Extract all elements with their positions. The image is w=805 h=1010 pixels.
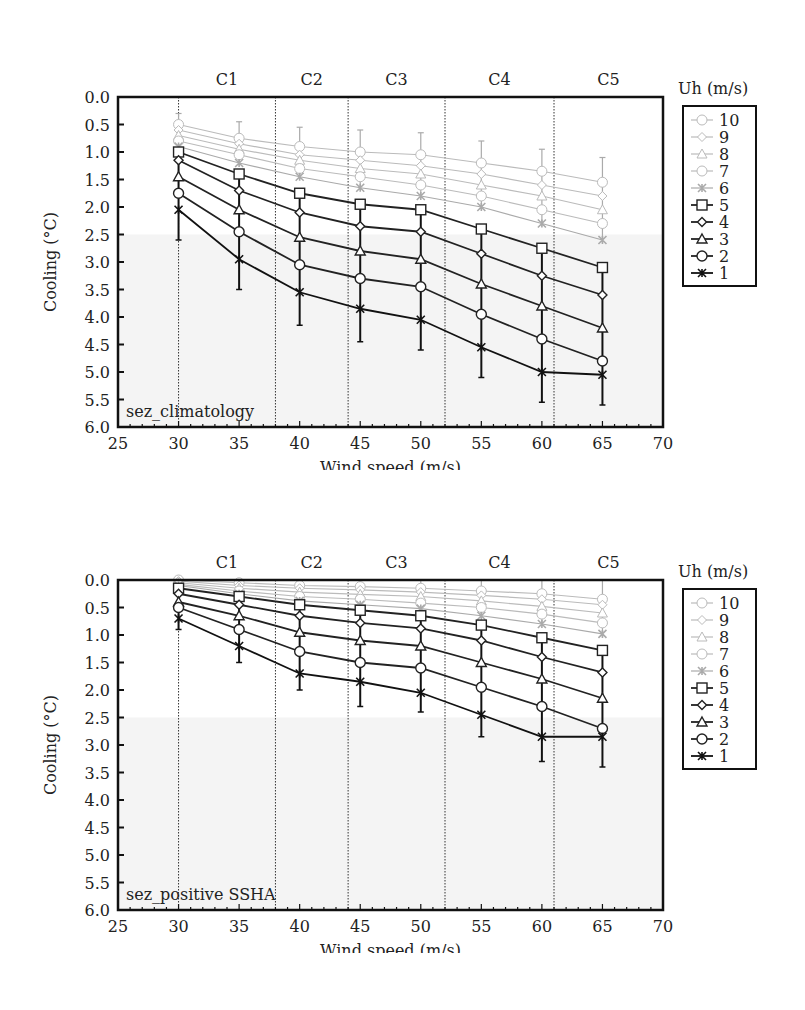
category-label: C3 <box>385 553 407 572</box>
square-marker-icon <box>476 620 486 630</box>
diamond-marker-icon <box>537 653 546 662</box>
diamond-marker-icon <box>598 668 607 677</box>
square-marker-icon <box>597 645 607 655</box>
square-marker-icon <box>697 200 707 210</box>
diamond-marker-icon <box>295 208 304 217</box>
y-tick-label: 4.5 <box>85 336 110 355</box>
circle-marker-icon <box>697 115 707 125</box>
triangle-marker-icon <box>174 172 184 181</box>
circle-marker-icon <box>537 609 547 619</box>
x-axis-label: Wind speed (m/s) <box>320 458 461 470</box>
x-tick-label: 45 <box>350 917 370 936</box>
circle-marker-icon <box>476 191 486 201</box>
square-marker-icon <box>234 169 244 179</box>
x-tick-label: 50 <box>411 434 431 453</box>
category-label: C1 <box>216 70 238 89</box>
y-tick-label: 6.0 <box>85 418 110 437</box>
y-tick-label: 3.5 <box>85 281 110 300</box>
category-label: C3 <box>385 70 407 89</box>
x-tick-label: 30 <box>168 917 188 936</box>
diamond-marker-icon <box>356 222 365 231</box>
plot-shading <box>118 235 663 428</box>
circle-marker-icon <box>597 177 607 187</box>
star-marker-icon <box>538 220 546 228</box>
y-axis-label: Cooling (°C) <box>41 695 60 795</box>
y-tick-label: 0.0 <box>85 88 110 107</box>
x-tick-label: 45 <box>350 434 370 453</box>
circle-marker-icon <box>476 603 486 613</box>
x-tick-label: 65 <box>592 434 612 453</box>
category-label: C2 <box>301 553 323 572</box>
category-label: C4 <box>488 70 510 89</box>
circle-marker-icon <box>234 150 244 160</box>
circle-marker-icon <box>537 334 547 344</box>
category-label: C5 <box>597 70 619 89</box>
circle-marker-icon <box>476 682 486 692</box>
square-marker-icon <box>537 243 547 253</box>
square-marker-icon <box>416 205 426 215</box>
y-axis-label: Cooling (°C) <box>41 212 60 312</box>
y-tick-label: 4.0 <box>85 791 110 810</box>
diamond-marker-icon <box>477 170 486 179</box>
x-tick-label: 35 <box>229 434 249 453</box>
diamond-marker-icon <box>295 611 304 620</box>
circle-marker-icon <box>416 180 426 190</box>
x-tick-label: 70 <box>653 434 673 453</box>
square-marker-icon <box>416 611 426 621</box>
diamond-marker-icon <box>537 181 546 190</box>
circle-marker-icon <box>697 251 707 261</box>
square-marker-icon <box>295 188 305 198</box>
circle-marker-icon <box>416 663 426 673</box>
y-tick-label: 1.5 <box>85 171 110 190</box>
circle-marker-icon <box>355 172 365 182</box>
y-tick-label: 2.5 <box>85 226 110 245</box>
y-tick-label: 4.5 <box>85 819 110 838</box>
x-tick-label: 30 <box>168 434 188 453</box>
circle-marker-icon <box>597 219 607 229</box>
x-tick-label: 60 <box>532 434 552 453</box>
legend-label: 1 <box>719 747 729 766</box>
circle-marker-icon <box>697 734 707 744</box>
x-tick-label: 35 <box>229 917 249 936</box>
diamond-marker-icon <box>477 636 486 645</box>
y-tick-label: 5.0 <box>85 363 110 382</box>
triangle-marker-icon <box>234 205 244 214</box>
circle-marker-icon <box>697 166 707 176</box>
y-tick-label: 0.0 <box>85 571 110 590</box>
y-tick-label: 5.0 <box>85 846 110 865</box>
category-label: C1 <box>216 553 238 572</box>
square-marker-icon <box>597 263 607 273</box>
circle-marker-icon <box>355 658 365 668</box>
star-marker-icon <box>235 642 243 650</box>
y-tick-label: 6.0 <box>85 901 110 920</box>
chart-svg-b: C1C2C3C4C50.00.51.01.52.02.53.03.54.04.5… <box>0 483 805 953</box>
star-marker-icon <box>477 711 485 719</box>
y-tick-label: 2.0 <box>85 198 110 217</box>
chart-panel-b: C1C2C3C4C50.00.51.01.52.02.53.03.54.04.5… <box>0 483 805 953</box>
circle-marker-icon <box>537 702 547 712</box>
circle-marker-icon <box>597 356 607 366</box>
y-tick-label: 0.5 <box>85 116 110 135</box>
y-tick-label: 1.0 <box>85 143 110 162</box>
square-marker-icon <box>355 605 365 615</box>
x-tick-label: 40 <box>289 434 309 453</box>
star-marker-icon <box>235 159 243 167</box>
circle-marker-icon <box>476 309 486 319</box>
chart-svg-a: C1C2C3C4C50.00.51.01.52.02.53.03.54.04.5… <box>0 0 805 470</box>
legend-label: 1 <box>719 264 729 283</box>
circle-marker-icon <box>174 603 184 613</box>
y-tick-label: 3.5 <box>85 764 110 783</box>
square-marker-icon <box>537 633 547 643</box>
circle-marker-icon <box>416 150 426 160</box>
square-marker-icon <box>295 600 305 610</box>
y-tick-label: 2.0 <box>85 681 110 700</box>
y-tick-label: 3.0 <box>85 253 110 272</box>
square-marker-icon <box>697 683 707 693</box>
diamond-marker-icon <box>416 624 425 633</box>
category-label: C4 <box>488 553 510 572</box>
circle-marker-icon <box>597 618 607 628</box>
x-tick-label: 70 <box>653 917 673 936</box>
y-tick-label: 1.0 <box>85 626 110 645</box>
x-tick-label: 25 <box>108 917 128 936</box>
y-tick-label: 2.5 <box>85 709 110 728</box>
